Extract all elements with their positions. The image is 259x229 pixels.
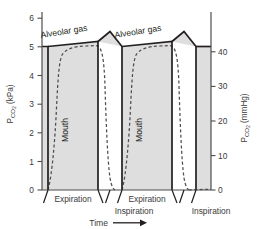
left-tick-label-2: 2 [29, 128, 34, 138]
x-axis-title: Time [89, 218, 147, 228]
left-tick-label-3: 3 [29, 99, 34, 109]
left-tick-label-1: 1 [29, 157, 34, 167]
svg-text:Mouth: Mouth [60, 118, 70, 142]
phase-label-expiration-1: Expiration [54, 194, 92, 204]
left-axis-title: PCO2 (kPa) [6, 84, 17, 123]
right-tick-label-0: 0 [218, 185, 223, 195]
annotation-mouth-2: Mouth [134, 118, 144, 142]
svg-text:PCO2 (kPa): PCO2 (kPa) [6, 84, 17, 123]
right-tick-label-20: 20 [218, 116, 228, 126]
left-tick-label-5: 5 [29, 42, 34, 52]
left-axis: 6 5 4 3 2 1 0 PCO2 (kPa) [6, 12, 42, 195]
time-label: Time [89, 218, 108, 228]
annotation-mouth-1: Mouth [60, 118, 70, 142]
left-tick-label-6: 6 [29, 13, 34, 23]
capnogram-figure: 6 5 4 3 2 1 0 PCO2 (kPa) 40 30 20 1 [0, 0, 259, 229]
svg-text:PCO2 (mmHg): PCO2 (mmHg) [240, 93, 251, 142]
svg-text:Alveolar gas: Alveolar gas [114, 23, 162, 40]
right-axis-title: PCO2 (mmHg) [240, 93, 251, 142]
phase-label-inspiration-1: Inspiration [115, 206, 154, 216]
left-tick-label-4: 4 [29, 71, 34, 81]
right-tick-label-30: 30 [218, 81, 228, 91]
annotation-alveolar-gas-2: Alveolar gas [114, 23, 162, 40]
right-axis: 40 30 20 10 0 PCO2 (mmHg) [211, 12, 251, 195]
right-axis-ticks [211, 52, 216, 190]
right-tick-label-10: 10 [218, 151, 228, 161]
phase-label-expiration-2: Expiration [128, 194, 166, 204]
svg-text:Alveolar gas: Alveolar gas [40, 23, 88, 40]
svg-text:Mouth: Mouth [134, 118, 144, 142]
left-tick-label-0: 0 [29, 185, 34, 195]
annotation-alveolar-gas-1: Alveolar gas [40, 23, 88, 40]
right-tick-label-40: 40 [218, 47, 228, 57]
left-axis-ticks [38, 18, 43, 190]
chart-canvas: 6 5 4 3 2 1 0 PCO2 (kPa) 40 30 20 1 [0, 0, 259, 229]
phase-label-inspiration-2: Inspiration [192, 206, 231, 216]
